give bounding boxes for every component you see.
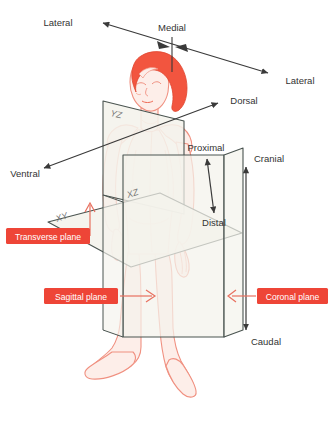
plane-sagittal-lower-surface	[103, 195, 123, 337]
foot-right-shape	[166, 359, 196, 398]
anatomical-planes-diagram: YZ XY XZ Lateral Lateral	[0, 0, 331, 426]
diagram-canvas: YZ XY XZ Lateral Lateral	[0, 0, 331, 426]
lateral-left-label: Lateral	[43, 17, 72, 28]
plane-right-slab-surface	[224, 148, 243, 337]
cranial-label: Cranial	[254, 153, 284, 164]
callout-transverse-plane[interactable]: Transverse plane	[6, 228, 90, 244]
plane-xz-surface	[123, 155, 224, 337]
plane-xz-coronal: XZ	[123, 155, 224, 337]
foot-left-shape	[85, 352, 136, 379]
lateral-right-label: Lateral	[285, 75, 314, 86]
ventral-label: Ventral	[10, 168, 40, 179]
plane-sagittal-lower-slab	[103, 195, 123, 337]
callout-sagittal-plane[interactable]: Sagittal plane	[44, 288, 118, 304]
callout-coronal-label: Coronal plane	[266, 292, 320, 302]
callout-coronal-plane[interactable]: Coronal plane	[257, 288, 328, 304]
medial-label: Medial	[158, 22, 186, 33]
callout-sagittal-label: Sagittal plane	[55, 292, 107, 302]
distal-label: Distal	[202, 217, 226, 228]
callout-transverse-label: Transverse plane	[15, 232, 81, 242]
plane-right-slab	[224, 148, 243, 337]
proximal-label: Proximal	[188, 142, 225, 153]
dorsal-label: Dorsal	[230, 95, 257, 106]
caudal-label: Caudal	[251, 336, 281, 347]
